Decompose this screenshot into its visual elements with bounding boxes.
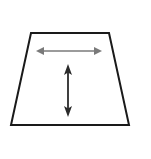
trapezoid-diagram bbox=[0, 0, 151, 159]
figure-canvas bbox=[0, 0, 151, 159]
